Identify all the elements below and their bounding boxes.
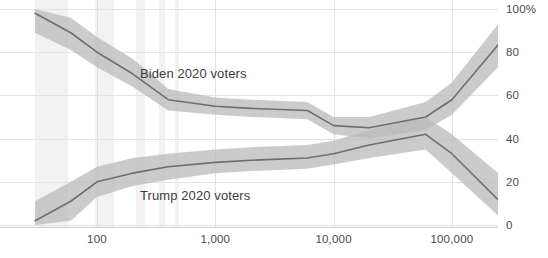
x-tick-label: 100,000 bbox=[430, 234, 473, 246]
series-label-biden: Biden 2020 voters bbox=[140, 67, 247, 80]
y-tick-label: 40 bbox=[506, 134, 519, 146]
chart-root: 020406080100% 1001,00010,000100,000 Bide… bbox=[0, 0, 548, 258]
confidence-band-trump bbox=[35, 117, 498, 225]
y-tick-label: 20 bbox=[506, 177, 519, 189]
y-tick-label: 80 bbox=[506, 47, 519, 59]
x-tick-label: 10,000 bbox=[315, 234, 351, 246]
x-tick-label: 1,000 bbox=[200, 234, 230, 246]
y-tick-label: 0 bbox=[506, 220, 513, 232]
x-axis-line bbox=[0, 227, 498, 228]
y-tick-label: 100% bbox=[506, 4, 536, 16]
x-tick-label: 100 bbox=[87, 234, 107, 246]
series-label-trump: Trump 2020 voters bbox=[140, 189, 250, 202]
y-tick-label: 60 bbox=[506, 90, 519, 102]
